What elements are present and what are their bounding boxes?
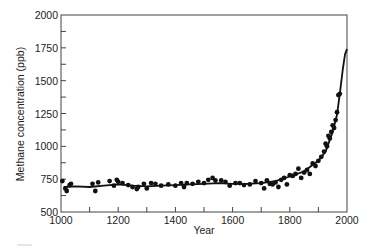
data-point (120, 181, 125, 186)
data-point (107, 179, 112, 184)
y-tick-label: 500 (40, 206, 58, 218)
data-point (259, 181, 264, 186)
data-point (190, 181, 195, 186)
data-point (262, 186, 267, 191)
data-point (273, 180, 278, 185)
data-point (329, 130, 334, 135)
data-point (93, 189, 98, 194)
data-point (126, 183, 131, 188)
x-tick-label: 1200 (107, 214, 131, 226)
data-point (233, 181, 238, 186)
x-axis-label: Year (193, 224, 215, 236)
x-tick-label: 1800 (278, 214, 302, 226)
data-point (276, 185, 281, 190)
data-points (60, 91, 342, 193)
y-tick-label: 2000 (35, 9, 59, 21)
data-point (153, 181, 158, 186)
data-point (327, 136, 332, 141)
trend-line (64, 49, 347, 187)
data-point (307, 172, 312, 177)
data-point (253, 179, 258, 184)
data-point (316, 158, 321, 163)
data-point (247, 182, 252, 187)
data-point (196, 179, 201, 184)
x-tick-label: 1600 (221, 214, 245, 226)
data-point (299, 176, 304, 181)
y-tick-label: 1250 (35, 108, 59, 120)
data-point (112, 183, 117, 188)
data-point (237, 181, 242, 186)
data-point (149, 181, 154, 186)
y-axis-tick-labels: 50075010001250150017502000 (35, 9, 59, 218)
data-point (182, 185, 187, 190)
y-tick-label: 1750 (35, 42, 59, 54)
x-tick-label: 2000 (335, 214, 359, 226)
data-point (96, 180, 101, 185)
data-point (322, 149, 327, 154)
y-tick-label: 1000 (35, 140, 59, 152)
data-point (90, 181, 95, 186)
data-point (173, 183, 178, 188)
data-point (144, 186, 149, 191)
data-point (293, 172, 298, 177)
y-tick-label: 750 (40, 173, 58, 185)
data-point (305, 168, 310, 173)
data-point (136, 185, 141, 190)
y-axis-ticks (61, 31, 66, 195)
data-point (64, 189, 69, 194)
data-point (219, 178, 224, 183)
data-point (223, 179, 228, 184)
data-point (60, 179, 65, 184)
data-point (296, 166, 301, 171)
data-point (202, 181, 207, 186)
y-axis-label: Methane concentration (ppb) (14, 47, 26, 181)
data-point (179, 181, 184, 186)
data-point (69, 181, 74, 186)
data-point (313, 164, 318, 169)
methane-chart: 100012001400160018002000 500750100012501… (0, 0, 377, 249)
data-point (159, 183, 164, 188)
data-point (130, 185, 135, 190)
x-tick-label: 1400 (164, 214, 188, 226)
data-point (333, 118, 338, 123)
data-point (335, 110, 340, 115)
data-point (166, 182, 171, 187)
x-axis-ticks (90, 207, 319, 212)
data-point (332, 126, 337, 131)
data-point (319, 154, 324, 159)
data-point (206, 177, 211, 182)
data-point (142, 181, 147, 186)
data-point (242, 183, 247, 188)
data-point (282, 176, 287, 181)
data-point (184, 181, 189, 186)
data-point (325, 144, 330, 149)
y-tick-label: 1500 (35, 75, 59, 87)
data-point (213, 178, 218, 183)
data-point (116, 179, 121, 184)
data-point (337, 91, 342, 96)
data-point (227, 183, 232, 188)
data-point (285, 182, 290, 187)
